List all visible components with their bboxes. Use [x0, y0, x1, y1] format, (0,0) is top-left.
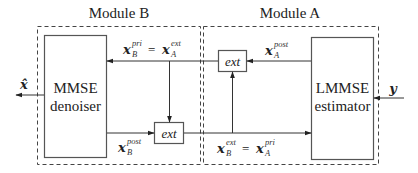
- svg-text:B: B: [127, 147, 132, 157]
- svg-text:B: B: [226, 148, 231, 158]
- signal-x-hat: x̂: [19, 77, 28, 92]
- svg-text:pri: pri: [264, 137, 276, 147]
- mmse-label-line1: MMSE: [53, 80, 97, 96]
- svg-text:x: x: [216, 141, 225, 156]
- module-b-title: Module B: [89, 5, 149, 21]
- lmmse-label-line2: estimator: [315, 98, 371, 114]
- svg-text:ext: ext: [171, 38, 182, 48]
- svg-text:x: x: [122, 42, 131, 57]
- signal-x-b-post: x post B: [117, 136, 142, 157]
- signal-x-a-post: x post A: [264, 39, 289, 60]
- svg-text:A: A: [170, 49, 177, 59]
- svg-text:x: x: [264, 43, 273, 58]
- ext-bottom-label: ext: [161, 126, 177, 141]
- svg-text:=: =: [242, 141, 249, 156]
- svg-text:post: post: [273, 39, 289, 49]
- diagram-canvas: Module B Module A MMSE denoiser LMMSE es…: [0, 0, 418, 173]
- lmmse-estimator-block: LMMSE estimator: [312, 38, 374, 160]
- lmmse-label-line1: LMMSE: [316, 80, 369, 96]
- svg-text:pri: pri: [131, 38, 143, 48]
- svg-text:x: x: [117, 140, 126, 155]
- module-a-title: Module A: [260, 5, 321, 21]
- svg-text:x: x: [255, 141, 264, 156]
- signal-x-b-pri-equals-x-a-ext: x pri B = x ext A: [122, 38, 182, 59]
- svg-text:B: B: [132, 49, 137, 59]
- signal-y: y: [388, 81, 398, 96]
- svg-text:=: =: [148, 42, 155, 57]
- svg-text:x: x: [161, 42, 170, 57]
- mmse-denoiser-block: MMSE denoiser: [45, 36, 107, 158]
- svg-text:post: post: [126, 136, 142, 146]
- svg-text:A: A: [264, 148, 271, 158]
- ext-block-bottom: ext: [155, 123, 184, 144]
- svg-text:ext: ext: [226, 137, 237, 147]
- mmse-label-line2: denoiser: [50, 98, 101, 114]
- signal-x-b-ext-equals-x-a-pri: x ext B = x pri A: [216, 137, 276, 158]
- ext-block-top: ext: [219, 51, 247, 72]
- ext-top-label: ext: [225, 54, 241, 69]
- svg-text:A: A: [273, 50, 280, 60]
